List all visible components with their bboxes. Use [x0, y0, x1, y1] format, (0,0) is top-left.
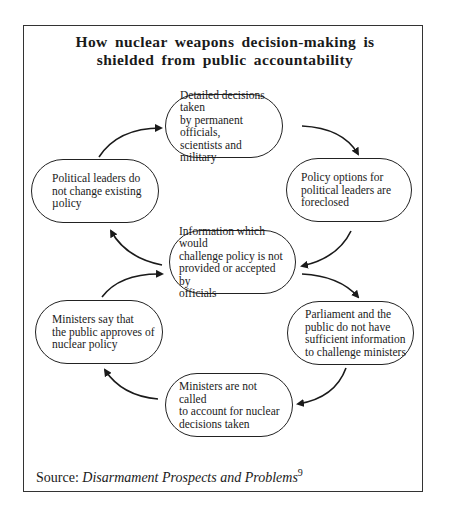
node-left-top: Political leaders do not change existing…: [31, 159, 159, 223]
source-label: Source:: [36, 470, 79, 485]
node-right-top: Policy options for political leaders are…: [286, 158, 412, 222]
source-citation: Source: Disarmament Prospects and Proble…: [36, 467, 303, 486]
node-bottom: Ministers are not called to account for …: [165, 373, 293, 437]
arrow-right-top-to-center: [302, 231, 351, 266]
source-footnote: 9: [298, 467, 303, 478]
arrow-left-bottom-to-center: [102, 274, 162, 297]
arrow-top-to-right-top: [302, 126, 358, 154]
node-top: Detailed decisions taken by permanent of…: [165, 94, 283, 158]
arrow-center-to-right-bottom: [302, 274, 358, 297]
node-center: Information which would challenge policy…: [169, 230, 296, 294]
arrow-center-to-left-top: [111, 231, 162, 265]
source-title: Disarmament Prospects and Problems: [82, 470, 298, 485]
arrow-left-top-to-top: [99, 128, 161, 157]
node-left-bottom: Ministers say that the public approves o…: [35, 300, 163, 364]
node-right-bottom: Parliament and the public do not have su…: [287, 301, 414, 365]
arrow-right-bottom-to-bottom: [298, 368, 346, 404]
arrow-bottom-to-left-bottom: [105, 370, 158, 399]
